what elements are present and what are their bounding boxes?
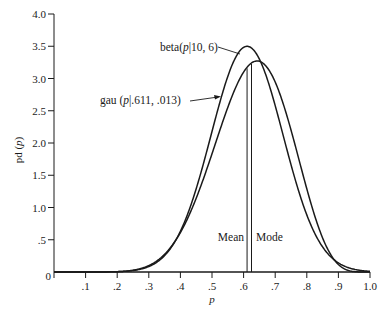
y-tick-label: 2.5: [32, 105, 46, 117]
mean-mode-markers: [247, 64, 251, 272]
x-tick-label: .8: [303, 280, 312, 292]
beta-curve: [54, 61, 370, 272]
y-tick-label: 4.0: [32, 8, 46, 20]
gaussian-pointer-arrowhead: [214, 95, 221, 100]
x-tick-label: 1.0: [363, 280, 377, 292]
x-tick-label: .3: [145, 280, 154, 292]
chart: .51.01.52.02.53.03.54.0 0.1.2.3.4.5.6.7.…: [0, 0, 386, 315]
y-axis: .51.01.52.02.53.03.54.0: [32, 8, 54, 278]
y-tick-label: 3.5: [32, 40, 46, 52]
gaussian-pointer-line: [190, 97, 218, 101]
x-axis: 0.1.2.3.4.5.6.7.8.91.0: [46, 270, 378, 292]
y-tick-label: .5: [38, 234, 47, 246]
x-tick-label: .2: [113, 280, 121, 292]
beta-legend-label: beta(p|10, 6): [160, 41, 218, 54]
curves: [54, 46, 370, 272]
mode-label: Mode: [256, 231, 283, 243]
mean-label: Mean: [218, 231, 244, 243]
x-tick-label: .4: [176, 280, 185, 292]
gaussian-legend-label: gau (p|.611, .013): [100, 94, 181, 107]
x-tick-label: .6: [239, 280, 248, 292]
y-tick-label: 1.5: [32, 169, 46, 181]
y-tick-label: 3.0: [32, 73, 46, 85]
x-tick-label: .9: [334, 280, 343, 292]
x-tick-label: .1: [81, 280, 89, 292]
y-tick-label: 1.0: [32, 202, 46, 214]
y-axis-label: pd (p): [12, 136, 25, 163]
y-tick-label: 2.0: [32, 137, 46, 149]
x-tick-label: .5: [208, 280, 217, 292]
x-origin-label: 0: [46, 270, 52, 282]
x-axis-label: p: [208, 293, 215, 305]
x-tick-label: .7: [271, 280, 280, 292]
beta-pointer-line: [218, 47, 240, 54]
